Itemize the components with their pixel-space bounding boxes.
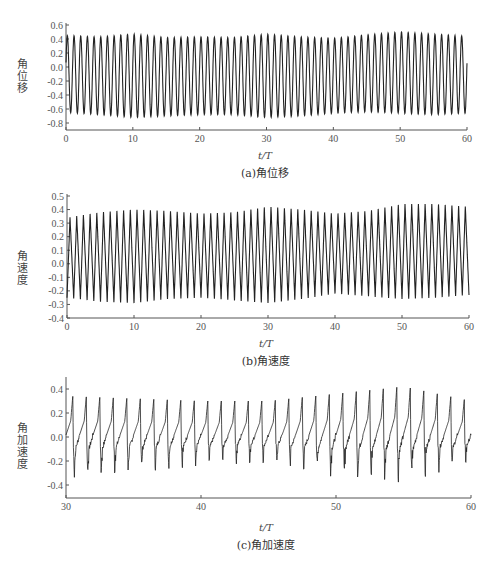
x-tick-label: 50 <box>331 501 341 512</box>
x-tick-label: 30 <box>61 501 71 512</box>
y-tick-label: 0.0 <box>51 432 64 443</box>
data-series-line <box>66 387 471 482</box>
y-tick-label: 0.4 <box>51 384 64 395</box>
x-axis-label: t/T <box>236 522 296 533</box>
figure-caption: (c)角加速度 <box>186 536 346 552</box>
panel-angular-acceleration: 0.40.20.0-0.2-0.430405060 角加速度 t/T (c)角加… <box>0 0 492 563</box>
y-tick-label: 0.2 <box>51 408 64 419</box>
x-tick-label: 60 <box>466 501 476 512</box>
x-tick-label: 40 <box>196 501 206 512</box>
chart-angular-acceleration: 0.40.20.0-0.2-0.430405060 <box>0 0 492 563</box>
y-tick-label: -0.2 <box>47 456 63 467</box>
y-axis-label: 角加速度 <box>14 422 28 470</box>
axes: 0.40.20.0-0.2-0.430405060 <box>47 377 476 512</box>
y-tick-label: -0.4 <box>47 480 63 491</box>
